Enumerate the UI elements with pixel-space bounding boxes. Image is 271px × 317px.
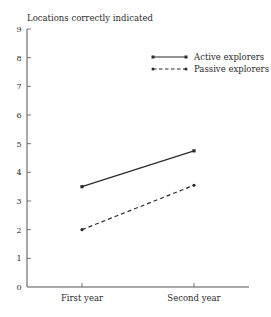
y-tick-label: 6 [16,111,21,120]
series-line-active-explorers [82,151,194,187]
y-tick-label: 9 [16,25,21,34]
y-tick-label: 4 [16,168,21,177]
legend-marker-icon [185,56,188,59]
y-tick-label: 8 [16,54,21,63]
x-tick-label-second-year: Second year [167,293,221,303]
legend-marker-icon [185,68,188,71]
y-tick-label: 1 [16,254,21,263]
y-tick-label: 7 [16,82,21,91]
data-series [80,149,195,231]
legend-label-active-explorers: Active explorers [193,52,264,62]
x-axis-ticks: First year Second year [61,283,222,303]
y-tick-label: 5 [16,140,21,149]
legend: Active explorers Passive explorers [152,52,270,74]
legend-marker-icon [152,68,155,71]
data-point-marker-icon [192,184,195,187]
series-line-passive-explorers [82,185,194,229]
legend-marker-icon [152,56,155,59]
legend-label-passive-explorers: Passive explorers [194,64,269,74]
y-tick-label: 0 [16,283,21,292]
y-tick-label: 3 [16,197,21,206]
x-tick-label-first-year: First year [61,293,104,303]
y-tick-label: 2 [16,226,21,235]
y-axis-label: Locations correctly indicated [27,13,153,23]
line-chart: Locations correctly indicated 0123456789… [0,0,271,317]
data-point-marker-icon [80,228,83,231]
chart-canvas: Locations correctly indicated 0123456789… [0,0,271,317]
data-point-marker-icon [80,185,83,188]
y-axis-ticks: 0123456789 [16,25,31,292]
data-point-marker-icon [192,149,195,152]
